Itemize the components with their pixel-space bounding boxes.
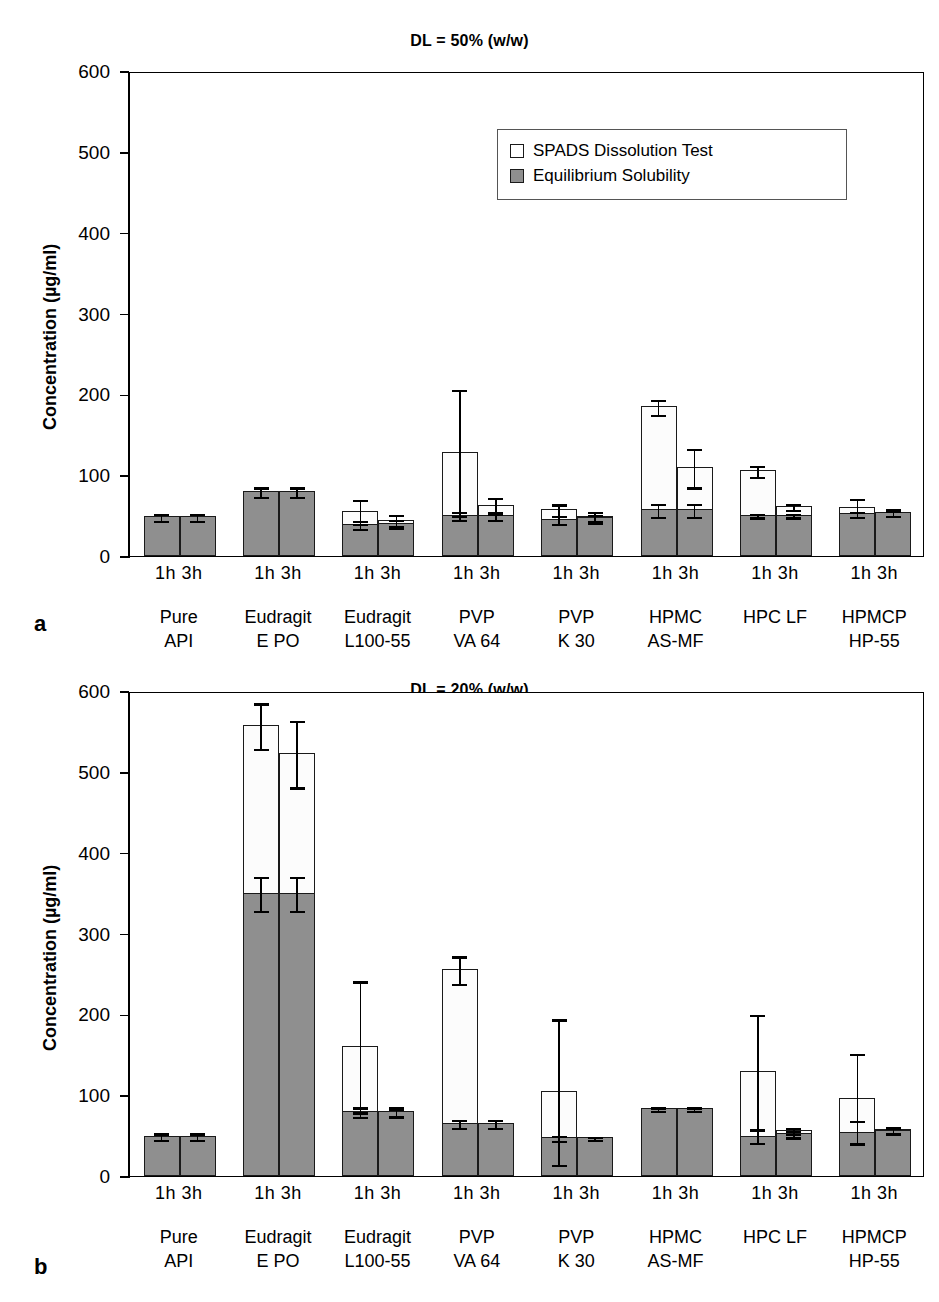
x-timepoint-labels: 1h 3h (427, 563, 526, 584)
bar-slot-3h (875, 693, 911, 1176)
x-category-label: HPC LF (725, 606, 824, 654)
bar-equilibrium-3h (378, 1111, 414, 1176)
equilibrium-1h-error-cap-top (750, 1130, 765, 1132)
spads-1h-error-cap-top (254, 703, 269, 705)
panel-b-bars-layer (130, 693, 923, 1176)
x-category-label: PVPK 30 (527, 606, 626, 654)
equilibrium-3h-error-cap-top (290, 877, 305, 879)
x-axis-group-label: 1h 3hHPMCPHP-55 (825, 1183, 924, 1274)
spads-3h-error-cap-top (786, 1128, 801, 1130)
equilibrium-1h-error-cap-top (850, 512, 865, 514)
y-tick-label: 500 (38, 763, 110, 782)
bar-equilibrium-1h (839, 513, 875, 556)
spads-1h-error-cap-bottom (750, 477, 765, 479)
bar-equilibrium-3h (776, 1133, 812, 1176)
equilibrium-1h-error-cap-bottom (750, 517, 765, 519)
spads-1h-error-cap-top (750, 1015, 765, 1017)
bar-equilibrium-3h (478, 1123, 514, 1176)
equilibrium-1h-error-cap-bottom (154, 521, 169, 523)
chart-panel-b: DL = 20% (w/w) b Concentration (µg/ml) 6… (0, 651, 939, 1302)
equilibrium-1h-error-cap-top (353, 1107, 368, 1109)
equilibrium-1h-error-cap-bottom (353, 529, 368, 531)
x-category-label: PVPVA 64 (427, 606, 526, 654)
y-tick-label: 0 (38, 547, 110, 566)
equilibrium-1h-error-cap-bottom (452, 520, 467, 522)
spads-1h-error-bar (360, 982, 362, 1113)
equilibrium-3h-error-cap-top (488, 1120, 503, 1122)
x-category-label: EudragitL100-55 (328, 1226, 427, 1274)
equilibrium-3h-error-bar (296, 878, 298, 912)
spads-1h-error-cap-bottom (254, 749, 269, 751)
bar-slot-1h (740, 693, 776, 1176)
equilibrium-1h-error-cap-top (651, 504, 666, 506)
bar-slot-1h (144, 73, 180, 556)
equilibrium-1h-error-cap-bottom (750, 1143, 765, 1145)
equilibrium-3h-error-cap-top (290, 487, 305, 489)
legend-label-equilibrium: Equilibrium Solubility (533, 166, 690, 186)
bar-slot-1h (243, 73, 279, 556)
spads-1h-error-bar (260, 704, 262, 749)
equilibrium-1h-error-cap-bottom (651, 1111, 666, 1113)
equilibrium-1h-error-cap-top (850, 1121, 865, 1123)
bar-slot-3h (180, 73, 216, 556)
bar-equilibrium-3h (677, 1108, 713, 1176)
y-tick-label: 0 (38, 1167, 110, 1186)
bar-equilibrium-3h (577, 1137, 613, 1176)
x-axis-group-label: 1h 3hHPMCPHP-55 (825, 563, 924, 654)
spads-1h-error-cap-top (850, 1054, 865, 1056)
y-tick-mark (120, 1015, 129, 1017)
x-axis-group-label: 1h 3hPVPK 30 (527, 563, 626, 654)
spads-1h-error-cap-top (452, 956, 467, 958)
equilibrium-1h-error-cap-top (452, 1120, 467, 1122)
equilibrium-1h-error-cap-top (154, 514, 169, 516)
x-axis-group-label: 1h 3hHPMCAS-MF (626, 563, 725, 654)
legend: SPADS Dissolution Test Equilibrium Solub… (497, 129, 847, 200)
x-axis-group-label: 1h 3hPVPVA 64 (427, 563, 526, 654)
x-timepoint-labels: 1h 3h (228, 1183, 327, 1204)
equilibrium-1h-error-cap-bottom (254, 497, 269, 499)
bar-slot-1h (442, 73, 478, 556)
bar-group (342, 73, 414, 556)
y-tick-label: 200 (38, 1005, 110, 1024)
equilibrium-1h-error-cap-bottom (552, 1141, 567, 1143)
bar-group (839, 693, 911, 1176)
bar-equilibrium-1h (243, 893, 279, 1176)
equilibrium-1h-error-bar (857, 1122, 859, 1145)
bar-group (144, 693, 216, 1176)
equilibrium-3h-error-cap-top (190, 1133, 205, 1135)
x-category-label: HPMCAS-MF (626, 1226, 725, 1274)
bar-equilibrium-3h (279, 491, 315, 556)
equilibrium-3h-error-cap-bottom (389, 1117, 404, 1119)
equilibrium-3h-error-cap-bottom (786, 1137, 801, 1139)
x-category-label: HPC LF (725, 1226, 824, 1274)
y-tick-label: 400 (38, 224, 110, 243)
y-tick-label: 600 (38, 62, 110, 81)
x-category-label: EudragitL100-55 (328, 606, 427, 654)
spads-3h-error-cap-top (687, 449, 702, 451)
equilibrium-3h-error-cap-bottom (290, 911, 305, 913)
bar-group (144, 73, 216, 556)
legend-item-equilibrium: Equilibrium Solubility (510, 166, 832, 186)
x-category-label: EudragitE PO (228, 1226, 327, 1274)
x-axis-group-label: 1h 3hPureAPI (129, 563, 228, 654)
equilibrium-3h-error-cap-top (389, 1107, 404, 1109)
x-category-label: PureAPI (129, 1226, 228, 1274)
x-axis-group-label: 1h 3hPVPVA 64 (427, 1183, 526, 1274)
x-category-label: HPMCPHP-55 (825, 1226, 924, 1274)
legend-swatch-gray-icon (510, 169, 524, 183)
bar-equilibrium-3h (776, 515, 812, 556)
x-timepoint-labels: 1h 3h (427, 1183, 526, 1204)
bar-slot-3h (180, 693, 216, 1176)
y-tick-mark (120, 556, 129, 558)
x-timepoint-labels: 1h 3h (626, 563, 725, 584)
spads-3h-error-cap-top (588, 512, 603, 514)
equilibrium-3h-error-cap-bottom (687, 1111, 702, 1113)
bar-slot-3h (279, 693, 315, 1176)
bar-slot-3h (279, 73, 315, 556)
equilibrium-1h-error-bar (260, 878, 262, 912)
spads-3h-error-bar (296, 722, 298, 788)
equilibrium-1h-error-cap-top (353, 521, 368, 523)
bar-slot-1h (342, 73, 378, 556)
equilibrium-1h-error-cap-top (254, 487, 269, 489)
y-tick-mark (120, 934, 129, 936)
